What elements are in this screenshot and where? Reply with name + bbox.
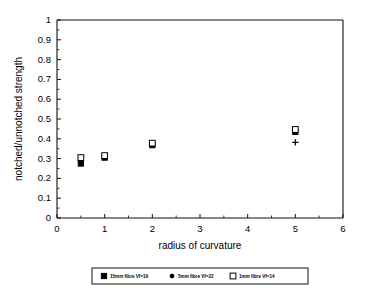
plot-frame	[57, 20, 343, 218]
y-tick-label: 0.4	[38, 133, 51, 144]
x-axis-title: radius of curvature	[159, 240, 242, 251]
x-tick-label: 6	[340, 223, 345, 234]
x-tick-label: 3	[197, 223, 202, 234]
x-tick-label: 5	[293, 223, 298, 234]
y-tick-label: 0.6	[38, 93, 51, 104]
x-tick-label: 0	[54, 223, 59, 234]
y-tick-label: 1	[46, 14, 51, 25]
legend-label-1: 5mm fibre Vf=22	[178, 274, 214, 279]
x-tick-label: 4	[245, 223, 250, 234]
x-tick-label: 2	[150, 223, 155, 234]
series-1	[79, 139, 299, 163]
y-axis-title: notched/unnotched strength	[13, 57, 24, 181]
legend-marker-0-square-filled	[101, 273, 106, 278]
data-point-square-open	[292, 127, 298, 133]
chart-figure: 00.10.20.30.40.50.60.70.80.91 0123456 ra…	[0, 0, 369, 300]
legend-label-2: 1mm fibre Vf=14	[239, 274, 275, 279]
y-tick-label: 0.8	[38, 54, 51, 65]
legend-marker-2-square-open	[230, 273, 236, 279]
y-tick-label: 0.7	[38, 73, 51, 84]
data-point-square-open	[78, 155, 84, 161]
y-tick-label: 0	[46, 212, 51, 223]
series-2	[78, 127, 298, 161]
data-point-square-open	[102, 153, 108, 159]
scatter-plot-svg: 00.10.20.30.40.50.60.70.80.91 0123456 ra…	[0, 0, 369, 300]
series-0	[78, 129, 298, 166]
y-tick-label: 0.1	[38, 192, 51, 203]
legend-marker-1-dot	[170, 274, 174, 278]
data-point-square-open	[149, 140, 155, 146]
x-tick-label: 1	[102, 223, 107, 234]
data-point-plus	[292, 139, 298, 145]
x-axis: 0123456	[54, 214, 345, 234]
legend-label-0: 15mm fibre Vf=19	[110, 274, 149, 279]
legend: 15mm fibre Vf=195mm fibre Vf=221mm fibre…	[92, 268, 308, 284]
y-tick-label: 0.5	[38, 113, 51, 124]
y-tick-label: 0.9	[38, 34, 51, 45]
y-tick-label: 0.2	[38, 172, 51, 183]
y-tick-label: 0.3	[38, 153, 51, 164]
data-points	[78, 127, 299, 167]
